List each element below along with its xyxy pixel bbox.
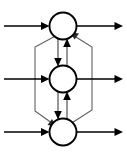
- edge-middle-to-top: [63, 39, 71, 67]
- node-middle-circle[interactable]: [50, 66, 77, 93]
- external-output-bottom: [77, 128, 124, 136]
- node-graph-svg: [0, 0, 127, 156]
- node-bottom[interactable]: [50, 119, 77, 146]
- external-input-middle: [4, 75, 50, 83]
- external-input-top: [4, 22, 50, 30]
- node-middle[interactable]: [50, 66, 77, 93]
- external-input-bottom: [4, 128, 50, 136]
- node-bottom-circle[interactable]: [50, 119, 77, 146]
- diagram-canvas: [0, 0, 127, 156]
- node-top-circle[interactable]: [50, 13, 77, 40]
- node-top[interactable]: [50, 13, 77, 40]
- edge-bottom-to-middle: [63, 92, 71, 120]
- edge-top-to-middle: [54, 39, 62, 67]
- external-output-top: [77, 22, 124, 30]
- external-output-middle: [77, 75, 124, 83]
- edge-middle-to-bottom: [54, 92, 62, 120]
